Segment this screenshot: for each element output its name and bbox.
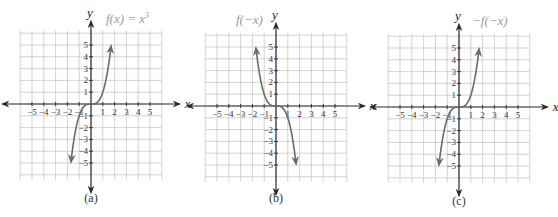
y-axis-label: y xyxy=(453,8,461,23)
y-tick-label: 1 xyxy=(84,87,89,97)
y-tick-label: −2 xyxy=(446,126,456,136)
y-tick-label: −5 xyxy=(446,161,456,171)
x-tick-label: −5 xyxy=(395,110,405,120)
x-tick-label: 5 xyxy=(516,110,521,120)
y-tick-label: 2 xyxy=(452,78,457,88)
y-tick-label: −4 xyxy=(78,146,88,156)
x-tick-label: 4 xyxy=(136,107,141,117)
y-tick-label: 1 xyxy=(269,89,274,99)
graph-panel-a: xy−5−4−3−2−112345−5−4−3−2−112345f(x) = x… xyxy=(3,5,191,205)
y-tick-label: 5 xyxy=(84,40,89,50)
y-tick-label: −2 xyxy=(78,123,88,133)
x-tick-label: −5 xyxy=(212,109,222,119)
x-tick-label: −4 xyxy=(224,109,234,119)
figure-three-graphs: xy−5−4−3−2−112345−5−4−3−2−112345f(x) = x… xyxy=(0,0,558,217)
panel-caption: (c) xyxy=(452,194,465,208)
y-tick-label: 5 xyxy=(269,42,274,52)
function-label: −f(−x) xyxy=(472,13,508,28)
y-tick-label: 3 xyxy=(452,67,457,77)
x-tick-label: 3 xyxy=(124,107,129,117)
y-tick-label: −4 xyxy=(263,148,273,158)
y-tick-label: −4 xyxy=(446,149,456,159)
x-tick-label: −3 xyxy=(236,109,246,119)
function-label: f(−x) xyxy=(236,12,263,27)
x-tick-label: −3 xyxy=(51,107,61,117)
x-tick-label: 2 xyxy=(112,107,117,117)
y-tick-label: 3 xyxy=(269,66,274,76)
y-tick-label: 3 xyxy=(84,64,89,74)
y-tick-label: 2 xyxy=(84,75,89,85)
x-tick-label: 2 xyxy=(480,110,485,120)
x-tick-label: −4 xyxy=(39,107,49,117)
y-tick-label: 4 xyxy=(452,55,457,65)
x-tick-label: −5 xyxy=(27,107,37,117)
graph-panel-b: xy−5−4−3−2−112345−5−4−3−2−112345f(−x)(b) xyxy=(188,7,376,205)
panel-caption: (b) xyxy=(269,191,283,205)
x-tick-label: 4 xyxy=(504,110,509,120)
y-tick-label: −2 xyxy=(263,125,273,135)
x-tick-label: 1 xyxy=(469,110,474,120)
y-tick-label: −3 xyxy=(446,137,456,147)
x-tick-label: −2 xyxy=(248,109,258,119)
x-axis-label: x xyxy=(552,99,558,114)
function-label: f(x) = x3 xyxy=(106,11,149,26)
x-tick-label: 4 xyxy=(321,109,326,119)
y-tick-label: −3 xyxy=(263,136,273,146)
y-tick-label: −5 xyxy=(263,160,273,170)
x-tick-label: 5 xyxy=(148,107,153,117)
x-tick-label: 3 xyxy=(492,110,497,120)
panel-caption: (a) xyxy=(84,191,97,205)
y-tick-label: 2 xyxy=(269,77,274,87)
x-tick-label: 3 xyxy=(309,109,314,119)
y-tick-label: 4 xyxy=(269,54,274,64)
x-axis-label: x xyxy=(369,98,376,113)
graph-panel-c: xy−5−4−3−2−112345−5−4−3−2−112345−f(−x)(c… xyxy=(371,8,558,208)
y-axis-label: y xyxy=(85,5,93,20)
y-axis-label: y xyxy=(270,7,278,22)
y-tick-label: −1 xyxy=(263,113,273,123)
y-tick-label: 5 xyxy=(452,43,457,53)
y-tick-label: −3 xyxy=(78,134,88,144)
x-tick-label: −2 xyxy=(431,110,441,120)
x-tick-label: −3 xyxy=(419,110,429,120)
x-tick-label: −4 xyxy=(407,110,417,120)
y-tick-label: 4 xyxy=(84,52,89,62)
x-tick-label: 5 xyxy=(333,109,338,119)
x-tick-label: 2 xyxy=(297,109,302,119)
x-axis-label: x xyxy=(184,96,191,111)
y-tick-label: −5 xyxy=(78,158,88,168)
y-tick-label: 1 xyxy=(452,90,457,100)
x-tick-label: 1 xyxy=(101,107,106,117)
x-tick-label: −2 xyxy=(63,107,73,117)
